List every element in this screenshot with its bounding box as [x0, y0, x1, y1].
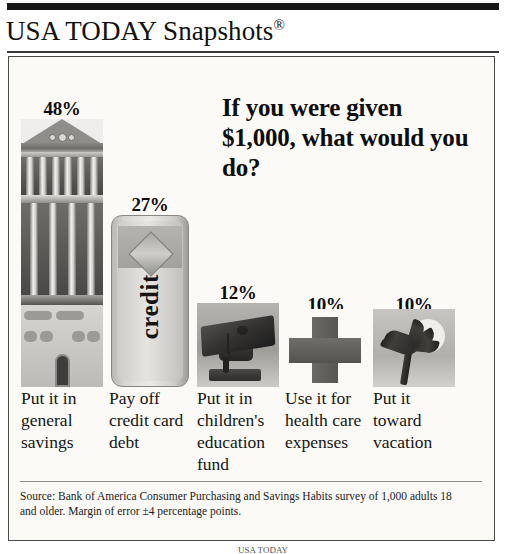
graduation-cap-icon [197, 303, 279, 387]
category-label-vacation: Put it toward vacation [373, 387, 457, 453]
bar-art-savings [21, 119, 103, 387]
source-divider [20, 481, 482, 482]
category-label-savings: Put it in general savings [21, 387, 105, 453]
tassel-cord [227, 333, 243, 361]
bank-column [30, 203, 38, 295]
bank-stone [56, 311, 84, 320]
medical-cross-icon [285, 309, 367, 387]
bank-stone [24, 331, 37, 342]
bank-ornament-icon [49, 134, 56, 141]
bank-plinth [21, 295, 103, 305]
infographic-panel: If you were given $1,000, what would you… [8, 56, 495, 541]
bar-art-credit-card: credit [109, 215, 191, 387]
bank-ornament-icon [58, 133, 67, 142]
cross-horizontal-bar [289, 338, 361, 363]
bank-architrave [21, 143, 103, 152]
bar-value-savings: 48% [21, 99, 103, 119]
category-label-education: Put it in children's education fund [197, 387, 281, 475]
bank-column [90, 157, 98, 195]
bar-art-education [197, 303, 279, 387]
bank-lower-colonnade [21, 203, 103, 295]
bar-value-credit-card: 27% [109, 195, 191, 215]
bank-stone-base [21, 305, 103, 387]
bank-stone [87, 331, 100, 342]
bank-ornament-icon [68, 134, 75, 141]
bar-value-education: 12% [197, 283, 279, 303]
registered-trademark-icon: ® [273, 17, 285, 33]
bank-column [39, 157, 47, 195]
bank-column [64, 157, 72, 195]
credit-byline: USA TODAY [238, 545, 506, 554]
bank-column [68, 203, 76, 295]
category-label-health-care: Use it for health care expenses [285, 387, 369, 453]
credit-card-icon: credit [111, 215, 189, 387]
bar-art-vacation [373, 309, 455, 387]
bank-stone [40, 331, 53, 342]
credit-card-label: credit [136, 275, 164, 340]
bank-upper-colonnade [21, 157, 103, 195]
book-icon [209, 369, 261, 381]
bank-building-icon [21, 119, 103, 387]
bank-column [49, 203, 57, 295]
masthead-title-text: USA TODAY Snapshots [6, 16, 273, 46]
category-labels: Put it in general savings Pay off credit… [9, 387, 493, 479]
palm-tree-icon [373, 309, 455, 387]
bank-cornice [21, 195, 103, 203]
chart-area: 48% [9, 57, 493, 387]
bank-column [87, 203, 95, 295]
bank-column [52, 157, 60, 195]
bank-door [55, 354, 70, 387]
masthead: USA TODAY Snapshots® [6, 14, 500, 50]
category-label-credit-card: Pay off credit card debt [109, 387, 193, 453]
bank-column [26, 157, 34, 195]
bank-stone [24, 311, 52, 320]
masthead-black-bar [7, 3, 499, 10]
masthead-divider [7, 51, 499, 53]
bar-art-health-care [285, 309, 367, 387]
bank-stone [72, 331, 85, 342]
bank-column [77, 157, 85, 195]
tassel-end [223, 357, 229, 373]
source-note: Source: Bank of America Consumer Purchas… [20, 489, 460, 519]
bank-pediment-ornaments [47, 131, 77, 142]
page-title: USA TODAY Snapshots® [6, 14, 500, 48]
